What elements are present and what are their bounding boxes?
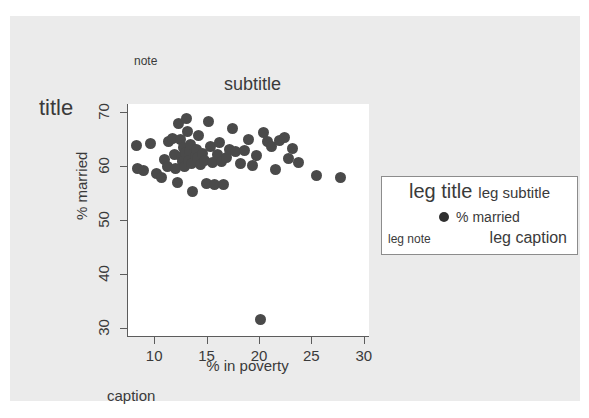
x-axis-tick-label: 20 bbox=[239, 347, 279, 364]
y-axis-tick-label: 70 bbox=[95, 99, 112, 125]
y-axis-tick-label: 50 bbox=[95, 207, 112, 233]
scatter-point bbox=[131, 140, 142, 151]
scatter-point bbox=[283, 153, 294, 164]
graph-region: note subtitle title caption % married % … bbox=[10, 16, 580, 401]
scatter-point bbox=[145, 138, 156, 149]
y-axis-tick-label: 60 bbox=[95, 153, 112, 179]
scatter-point bbox=[243, 134, 254, 145]
x-axis-tick bbox=[259, 336, 260, 344]
y-axis-tick bbox=[120, 166, 128, 167]
x-axis-tick bbox=[207, 336, 208, 344]
plot-panel: 3040506070 1015202530 bbox=[127, 104, 369, 337]
note-text: note bbox=[134, 54, 157, 68]
scatter-point bbox=[203, 116, 214, 127]
scatter-point bbox=[311, 170, 322, 181]
scatter-point bbox=[287, 143, 298, 154]
x-axis-tick-label: 15 bbox=[187, 347, 227, 364]
scatter-point bbox=[214, 137, 225, 148]
legend-caption: leg caption bbox=[490, 229, 567, 247]
scatter-point bbox=[335, 172, 346, 183]
scatter-points-layer bbox=[128, 104, 369, 336]
legend-header: leg title leg subtitle bbox=[382, 180, 577, 203]
scatter-point bbox=[156, 172, 167, 183]
subtitle-text: subtitle bbox=[224, 74, 281, 95]
scatter-point bbox=[251, 150, 262, 161]
legend-box[interactable]: leg title leg subtitle % married leg not… bbox=[381, 176, 578, 255]
scatter-point bbox=[239, 145, 250, 156]
caption-text: caption bbox=[107, 387, 155, 404]
y-axis-tick bbox=[120, 328, 128, 329]
legend-title: leg title bbox=[409, 180, 472, 203]
scatter-point bbox=[235, 158, 246, 169]
legend-note: leg note bbox=[388, 232, 431, 246]
title-text: title bbox=[39, 95, 73, 121]
y-axis-tick bbox=[120, 274, 128, 275]
scatter-point bbox=[218, 179, 229, 190]
legend-subtitle: leg subtitle bbox=[478, 184, 550, 201]
scatter-point bbox=[182, 126, 193, 137]
scatter-point bbox=[138, 165, 149, 176]
x-axis-tick-label: 30 bbox=[344, 347, 384, 364]
scatter-point bbox=[181, 113, 192, 124]
scatter-point bbox=[255, 314, 266, 325]
scatter-point bbox=[270, 164, 281, 175]
x-axis-tick bbox=[154, 336, 155, 344]
y-axis-title: % married bbox=[73, 152, 90, 220]
scatter-point bbox=[193, 130, 204, 141]
scatter-point bbox=[172, 177, 183, 188]
scatter-point bbox=[227, 123, 238, 134]
legend-key-label: % married bbox=[456, 209, 520, 225]
scatter-point bbox=[187, 186, 198, 197]
x-axis-tick-label: 25 bbox=[291, 347, 331, 364]
y-axis-tick bbox=[120, 112, 128, 113]
scatter-point bbox=[293, 157, 304, 168]
legend-key-row[interactable]: % married bbox=[382, 209, 577, 225]
scatter-point bbox=[247, 160, 258, 171]
y-axis-tick bbox=[120, 220, 128, 221]
x-axis-tick bbox=[364, 336, 365, 344]
scatter-point bbox=[279, 132, 290, 143]
legend-marker-icon bbox=[439, 212, 449, 222]
x-axis-tick bbox=[311, 336, 312, 344]
y-axis-tick-label: 30 bbox=[95, 314, 112, 340]
x-axis-tick-label: 10 bbox=[134, 347, 174, 364]
y-axis-tick-label: 40 bbox=[95, 260, 112, 286]
